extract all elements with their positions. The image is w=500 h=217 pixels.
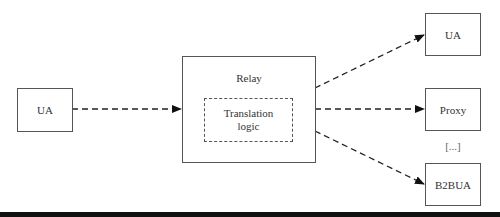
bottom-border-bar xyxy=(0,212,500,217)
translation-logic-line1: Translation xyxy=(224,107,274,120)
ellipsis-label: [...] xyxy=(425,140,481,152)
edge-relay-to-ua xyxy=(315,35,424,88)
source-ua-label: UA xyxy=(37,104,53,116)
proxy-label: Proxy xyxy=(440,104,466,116)
edge-relay-to-b2bua xyxy=(315,131,424,184)
target-ua-label: UA xyxy=(445,29,461,41)
translation-logic-line2: logic xyxy=(238,120,260,133)
b2bua-label: B2BUA xyxy=(435,179,471,191)
relay-label: Relay xyxy=(236,72,262,84)
target-ua-node: UA xyxy=(425,13,481,56)
source-ua-node: UA xyxy=(17,88,73,132)
proxy-node: Proxy xyxy=(425,88,481,131)
translation-logic-node: Translation logic xyxy=(204,98,293,142)
b2bua-node: B2BUA xyxy=(425,163,481,206)
